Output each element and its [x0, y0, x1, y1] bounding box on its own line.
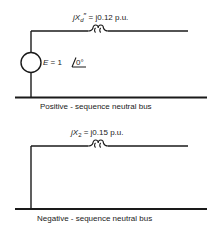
negative-inductor-icon [88, 140, 108, 146]
voltage-source-icon [21, 53, 41, 73]
positive-reactance-label: jXd″ = j0.12 p.u. [72, 11, 128, 23]
negative-bus-label: Negative - sequence neutral bus [37, 214, 152, 223]
source-label: E = 1 [43, 58, 62, 67]
positive-inductor-loops [95, 28, 101, 33]
positive-sequence-network: jXd″ = j0.12 p.u. E = 1 0° Positive - se… [15, 11, 207, 111]
negative-inductor-loops [95, 143, 101, 148]
positive-bus-label: Positive - sequence neutral bus [40, 102, 152, 111]
source-angle: 0° [76, 58, 84, 67]
sequence-networks-diagram: jXd″ = j0.12 p.u. E = 1 0° Positive - se… [0, 0, 218, 229]
negative-sequence-network: jX2 = j0.15 p.u. Negative - sequence neu… [15, 128, 207, 223]
negative-reactance-label: jX2 = j0.15 p.u. [70, 128, 124, 138]
positive-inductor-icon [88, 25, 108, 31]
